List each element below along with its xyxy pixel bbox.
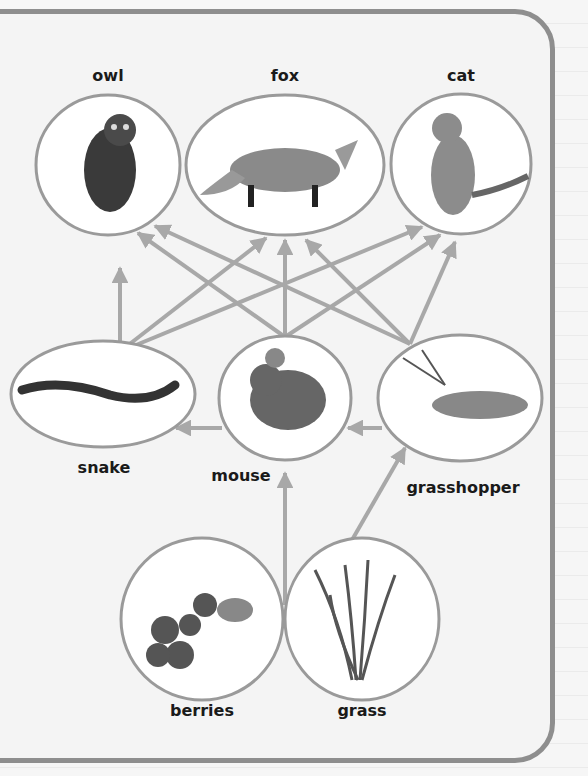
berries-node: [121, 538, 283, 700]
arrow-snake-cat: [124, 227, 422, 350]
food-web-diagram: [0, 0, 588, 776]
grasshopper-label: grasshopper: [406, 478, 519, 497]
owl-label: owl: [92, 66, 123, 85]
arrow-grasshopper-cat: [410, 242, 455, 344]
grass-label: grass: [337, 701, 386, 720]
arrow-grasshopper-owl: [155, 226, 410, 344]
mouse-label: mouse: [211, 466, 270, 485]
snake-label: snake: [78, 458, 131, 477]
fox-label: fox: [271, 66, 299, 85]
arrow-grasshopper-fox: [306, 240, 410, 344]
cat-label: cat: [447, 66, 475, 85]
arrow-snake-fox: [122, 238, 266, 350]
arrow-grass-grasshopper: [352, 448, 405, 540]
berries-label: berries: [170, 701, 234, 720]
